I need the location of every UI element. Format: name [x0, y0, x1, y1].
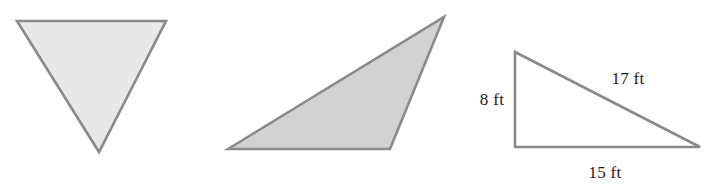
label-leg-vertical: 8 ft [480, 90, 504, 109]
label-leg-horizontal: 15 ft [588, 163, 621, 182]
label-hypotenuse: 17 ft [611, 69, 644, 88]
geometry-figure-canvas: 8 ft 17 ft 15 ft [0, 0, 716, 187]
